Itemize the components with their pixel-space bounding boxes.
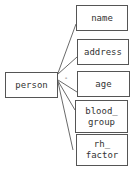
entity-label: person: [15, 80, 48, 91]
entity-person: person: [5, 72, 58, 98]
attribute-name: name: [76, 5, 128, 31]
attribute-label: address: [84, 47, 122, 58]
attribute-age: age: [77, 71, 130, 97]
dash-mark: -: [64, 74, 68, 82]
attribute-rh-factor: rh_ factor: [76, 134, 128, 166]
attribute-label: age: [95, 79, 111, 90]
attribute-label: blood_ group: [85, 106, 118, 128]
attribute-label: rh_ factor: [86, 139, 119, 161]
attribute-label: name: [91, 13, 113, 24]
attribute-address: address: [77, 39, 129, 65]
attribute-blood-group: blood_ group: [75, 100, 128, 133]
